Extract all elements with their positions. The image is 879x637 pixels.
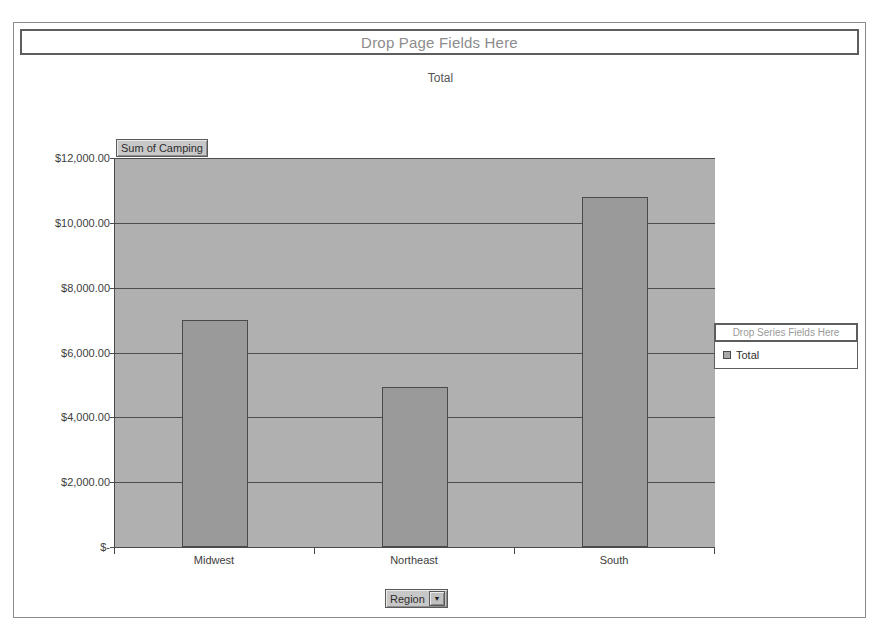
series-fields-drop-label: Drop Series Fields Here	[733, 327, 840, 338]
series-fields-drop-area[interactable]: Drop Series Fields Here	[714, 323, 858, 342]
x-axis-tick-mark	[314, 548, 315, 554]
gridline	[115, 158, 715, 159]
y-axis-tick-label: $-	[18, 541, 110, 553]
x-axis-tick-mark	[114, 548, 115, 554]
x-axis-tick-label: Northeast	[354, 554, 474, 566]
page-fields-drop-label: Drop Page Fields Here	[361, 34, 518, 51]
bar-northeast[interactable]	[382, 387, 448, 547]
x-axis-tick-label: South	[554, 554, 674, 566]
legend-swatch	[723, 351, 731, 359]
y-axis-tick-label: $4,000.00	[18, 411, 110, 423]
legend-label: Total	[736, 349, 759, 361]
y-axis-tick-label: $8,000.00	[18, 282, 110, 294]
pivot-chart-frame: Drop Page Fields Here Total Sum of Campi…	[13, 22, 866, 618]
row-field-label: Region	[390, 593, 425, 605]
y-axis-tick-label: $6,000.00	[18, 347, 110, 359]
value-field-button-sum-of-camping[interactable]: Sum of Camping	[116, 139, 208, 157]
x-axis-tick-mark	[714, 548, 715, 554]
value-field-label: Sum of Camping	[121, 142, 203, 154]
y-axis-tick-label: $2,000.00	[18, 476, 110, 488]
y-axis-tick-label: $12,000.00	[18, 152, 110, 164]
chart-title: Total	[14, 71, 867, 85]
chevron-down-icon[interactable]: ▼	[429, 591, 445, 606]
x-axis-tick-mark	[514, 548, 515, 554]
x-axis: MidwestNortheastSouth	[114, 554, 714, 572]
plot-area	[114, 158, 715, 548]
y-axis: $-$2,000.00$4,000.00$6,000.00$8,000.00$1…	[14, 23, 110, 619]
bar-midwest[interactable]	[182, 320, 248, 547]
legend-items: Total	[714, 342, 858, 369]
legend: Drop Series Fields Here Total	[714, 323, 858, 369]
bar-south[interactable]	[582, 197, 648, 547]
x-axis-tick-label: Midwest	[154, 554, 274, 566]
y-axis-tick-label: $10,000.00	[18, 217, 110, 229]
page-fields-drop-area[interactable]: Drop Page Fields Here	[20, 29, 859, 55]
row-field-button-region[interactable]: Region ▼	[385, 589, 448, 608]
